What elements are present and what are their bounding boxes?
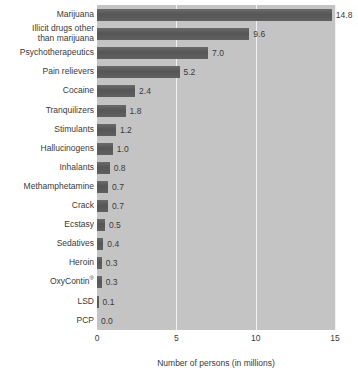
bar: [97, 28, 249, 40]
bar-value-label: 0.7: [112, 181, 124, 193]
bar-value-label: 9.6: [253, 28, 265, 40]
bar: [97, 66, 180, 78]
bar-value-label: 0.3: [106, 276, 118, 288]
bar-value-label: 0.5: [109, 219, 121, 231]
bar: [97, 9, 332, 21]
category-label: Stimulants: [0, 125, 94, 135]
bar: [97, 219, 105, 231]
bar: [97, 257, 102, 269]
category-label: Psychotherapeutics: [0, 48, 94, 58]
category-label: Inhalants: [0, 163, 94, 173]
bar: [97, 200, 108, 212]
gridline-15: [335, 5, 336, 330]
x-tick-label: 15: [330, 332, 339, 344]
bar: [97, 47, 208, 59]
category-label: Cocaine: [0, 86, 94, 96]
bar-chart: MarijuanaIllicit drugs otherthan marijua…: [0, 0, 358, 382]
category-label: Sedatives: [0, 239, 94, 249]
bar-value-label: 0.0: [101, 315, 113, 327]
bar-value-label: 5.2: [184, 66, 196, 78]
x-tick-label: 0: [95, 332, 100, 344]
bar: [97, 85, 135, 97]
bar-value-label: 0.1: [103, 296, 115, 308]
category-label: Illicit drugs otherthan marijuana: [0, 24, 94, 43]
category-label: Ecstasy: [0, 220, 94, 230]
bar-value-label: 1.8: [130, 105, 142, 117]
category-label: Tranquilizers: [0, 106, 94, 116]
x-tick-label: 5: [174, 332, 179, 344]
bar-value-label: 0.8: [114, 162, 126, 174]
bar-value-label: 1.0: [117, 143, 129, 155]
gridline-10: [256, 5, 257, 330]
bar-value-label: 0.4: [107, 238, 119, 250]
bar: [97, 238, 103, 250]
bar-value-label: 0.7: [112, 200, 124, 212]
bar: [97, 124, 116, 136]
x-tick-label: 10: [251, 332, 260, 344]
x-axis-title: Number of persons (in millions): [97, 358, 335, 368]
bar-value-label: 0.3: [106, 257, 118, 269]
category-label: LSD: [0, 297, 94, 307]
x-axis-ticks: 051015: [0, 332, 358, 346]
category-label: Methamphetamine: [0, 182, 94, 192]
category-label: Hallucinogens: [0, 144, 94, 154]
bar-value-label: 2.4: [139, 85, 151, 97]
bar-value-label: 7.0: [212, 47, 224, 59]
category-label: OxyContin®: [0, 277, 94, 287]
category-label: PCP: [0, 316, 94, 326]
bar-value-label: 1.2: [120, 124, 132, 136]
bar-value-label: 14.8: [336, 9, 353, 21]
bar: [97, 105, 126, 117]
category-label: Marijuana: [0, 10, 94, 20]
bar: [97, 143, 113, 155]
category-label: Pain relievers: [0, 67, 94, 77]
bar: [97, 296, 99, 308]
bar: [97, 181, 108, 193]
category-label: Crack: [0, 201, 94, 211]
bar: [97, 276, 102, 288]
category-label: Heroin: [0, 258, 94, 268]
bar: [97, 162, 110, 174]
